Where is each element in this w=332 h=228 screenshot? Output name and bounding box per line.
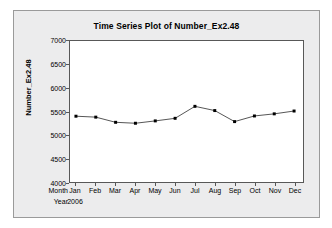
data-point-marker [253, 114, 256, 117]
x-axis: Jan2006FebMarAprMayJunJulAugSepOctNovDec [69, 183, 304, 217]
y-axis-tick-label: 5500 [50, 108, 66, 115]
y-axis-tick-mark [66, 64, 69, 65]
y-axis-tick-label: 6000 [50, 84, 66, 91]
x-axis-row-header-year: Year [28, 198, 68, 205]
data-point-marker [273, 112, 276, 115]
y-axis-tick-label: 4000 [50, 180, 66, 187]
data-point-marker [134, 122, 137, 125]
x-axis-row-header-month: Month [28, 187, 68, 194]
x-axis-year-label: 2006 [67, 198, 83, 205]
x-axis-tick-mark [295, 183, 296, 186]
y-axis-tick-label: 4500 [50, 156, 66, 163]
y-axis-tick-label: 6500 [50, 60, 66, 67]
data-point-marker [154, 119, 157, 122]
x-axis-tick-mark [235, 183, 236, 186]
series-line-chart [70, 41, 303, 182]
x-axis-month-label: Sep [229, 187, 241, 194]
x-axis-month-label: Aug [209, 187, 221, 194]
x-axis-month-label: Feb [89, 187, 101, 194]
x-axis-tick-mark [115, 183, 116, 186]
y-axis-tick-mark [66, 88, 69, 89]
chart-title: Time Series Plot of Number_Ex2.48 [14, 21, 319, 31]
y-axis-tick-labels: 4000450050005500600065007000 [34, 40, 66, 183]
y-axis-tick-mark [66, 183, 69, 184]
x-axis-tick-mark [275, 183, 276, 186]
x-axis-tick-mark [155, 183, 156, 186]
data-point-marker [233, 120, 236, 123]
x-axis-month-label: Nov [269, 187, 281, 194]
x-axis-tick-mark [195, 183, 196, 186]
data-point-marker [213, 109, 216, 112]
x-axis-month-label: Mar [109, 187, 121, 194]
x-axis-month-label: May [148, 187, 161, 194]
data-point-marker [193, 105, 196, 108]
x-axis-tick-mark [255, 183, 256, 186]
x-axis-tick-mark [175, 183, 176, 186]
x-axis-month-label: Jun [169, 187, 180, 194]
x-axis-month-label: Jan [69, 187, 80, 194]
y-axis-title: Number_Ex2.48 [24, 48, 33, 128]
y-axis-tick-label: 5000 [50, 132, 66, 139]
y-axis-tick-mark [66, 135, 69, 136]
chart-window: Time Series Plot of Number_Ex2.48 Number… [13, 10, 320, 218]
x-axis-tick-mark [75, 183, 76, 186]
data-point-marker [94, 116, 97, 119]
x-axis-tick-mark [95, 183, 96, 186]
plot-area [69, 40, 304, 183]
x-axis-month-label: Jul [191, 187, 200, 194]
x-axis-month-label: Apr [130, 187, 141, 194]
y-axis-tick-label: 7000 [50, 37, 66, 44]
x-axis-tick-mark [135, 183, 136, 186]
data-point-marker [114, 121, 117, 124]
data-point-marker [293, 110, 296, 113]
x-axis-month-label: Dec [289, 187, 301, 194]
y-axis-tick-mark [66, 40, 69, 41]
series-line [76, 106, 294, 123]
y-axis-tick-mark [66, 159, 69, 160]
x-axis-month-label: Oct [250, 187, 261, 194]
data-point-marker [74, 115, 77, 118]
x-axis-tick-mark [215, 183, 216, 186]
data-point-marker [174, 117, 177, 120]
y-axis-tick-mark [66, 112, 69, 113]
